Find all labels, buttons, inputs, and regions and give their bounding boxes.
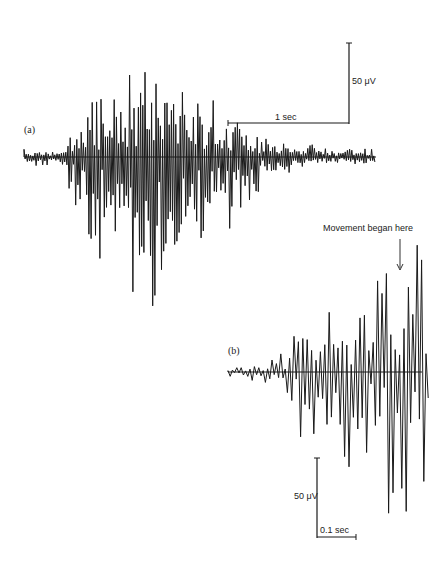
scale-b-voltage: 50 μV	[294, 491, 318, 501]
scale-bar-b: 50 μV 0.1 sec	[294, 458, 356, 540]
scale-a-time: 1 sec	[275, 112, 297, 122]
movement-annotation: Movement began here	[323, 223, 413, 233]
scale-bar-a: 50 μV 1 sec	[228, 43, 376, 126]
trace-a	[24, 72, 375, 306]
panel-b: (b) Movement began here 50 μV 0.1 sec	[228, 223, 428, 540]
panel-a-label: (a)	[24, 124, 35, 136]
panel-a: (a) 50 μV 1 sec	[24, 43, 376, 306]
emg-figure: (a) 50 μV 1 sec (b) Movement began here …	[0, 0, 441, 578]
panel-b-label: (b)	[228, 345, 240, 357]
scale-a-voltage: 50 μV	[352, 76, 376, 86]
trace-b	[228, 245, 428, 513]
scale-b-time: 0.1 sec	[320, 525, 350, 535]
